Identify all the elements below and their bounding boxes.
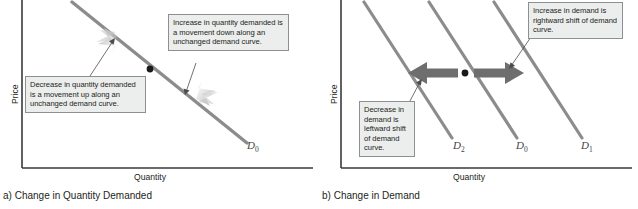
curve-label-d0-base: D — [516, 139, 524, 151]
curve-label-d1: D1 — [581, 139, 593, 154]
callout-increase-in-demand: Increase in demand is rightward shift of… — [528, 2, 623, 39]
curve-label-d2-base: D — [453, 139, 461, 151]
callout-decrease-in-demand: Decrease in demand is leftward shift of … — [359, 101, 415, 157]
curve-label-d0-base: D — [247, 139, 255, 151]
initial-point-marker — [462, 70, 469, 77]
leader-line-increase-qd — [184, 63, 197, 95]
panel-a-y-axis-title: Price — [10, 84, 20, 104]
panel-change-in-demand: Price Quantity D2 D0 D1 Increase in dema… — [319, 0, 638, 209]
panel-b-y-axis-title: Price — [329, 84, 339, 104]
panel-b-x-axis-title: Quantity — [453, 172, 485, 182]
curve-label-d0-subscript: 0 — [524, 145, 528, 154]
curve-label-d1-subscript: 1 — [589, 145, 593, 154]
callout-increase-in-quantity-demanded: Increase in quantity demanded is a movem… — [168, 14, 289, 51]
curve-label-d1-base: D — [581, 139, 589, 151]
panel-a-x-axis-title: Quantity — [134, 172, 166, 182]
demand-curve-figure: Price Quantity D0 Increase in quantity d… — [0, 0, 638, 209]
panel-change-in-quantity-demanded: Price Quantity D0 Increase in quantity d… — [0, 0, 319, 209]
initial-point-marker — [147, 66, 154, 73]
curve-label-d0-subscript: 0 — [255, 145, 259, 154]
panel-b-caption: b) Change in Demand — [322, 190, 420, 201]
curve-label-d2-subscript: 2 — [461, 145, 465, 154]
panel-a-caption: a) Change in Quantity Demanded — [3, 190, 152, 201]
curve-label-d0: D0 — [247, 139, 259, 154]
curve-label-d0: D0 — [516, 139, 528, 154]
callout-decrease-in-quantity-demanded: Decrease in quantity demanded is a movem… — [25, 76, 146, 113]
curve-label-d2: D2 — [453, 139, 465, 154]
